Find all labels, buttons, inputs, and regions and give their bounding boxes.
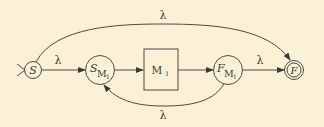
- svg-text:λ: λ: [160, 9, 167, 22]
- svg-text:S: S: [29, 64, 37, 77]
- svg-text:1: 1: [233, 73, 237, 80]
- state-f-accept: F: [285, 61, 304, 80]
- automaton-diagram: S λ S M 1 M 1 F M 1 λ F λ: [0, 0, 324, 127]
- svg-text:1: 1: [106, 73, 110, 80]
- svg-text:λ: λ: [160, 109, 167, 122]
- machine-m1-box: M 1: [144, 49, 178, 90]
- svg-text:F: F: [290, 65, 299, 76]
- edge-s-to-f-arc: λ: [36, 9, 290, 62]
- svg-text:λ: λ: [257, 54, 264, 67]
- svg-text:1: 1: [165, 70, 169, 78]
- svg-text:λ: λ: [55, 54, 62, 67]
- state-s-m1: S M 1: [86, 56, 115, 85]
- start-arrow-icon: [17, 64, 25, 76]
- edge-fm1-to-f: λ: [243, 54, 285, 70]
- edge-s-to-sm1: λ: [42, 54, 86, 70]
- state-f-m1: F M 1: [214, 56, 243, 85]
- state-s: S: [25, 62, 42, 79]
- svg-text:M: M: [152, 64, 163, 76]
